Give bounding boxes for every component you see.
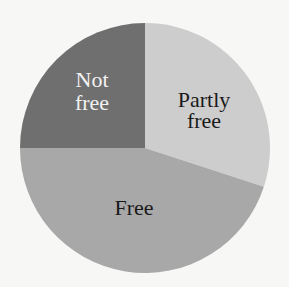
label-partly-free-line2: free <box>187 108 221 133</box>
label-not-free-line1: Not <box>76 67 109 92</box>
label-not-free-line2: free <box>75 90 109 115</box>
pie-slices <box>20 23 270 273</box>
pie-chart-svg: Partly free Free Not free <box>0 0 289 287</box>
label-free: Free <box>114 195 153 220</box>
pie-chart: Partly free Free Not free <box>0 0 289 287</box>
